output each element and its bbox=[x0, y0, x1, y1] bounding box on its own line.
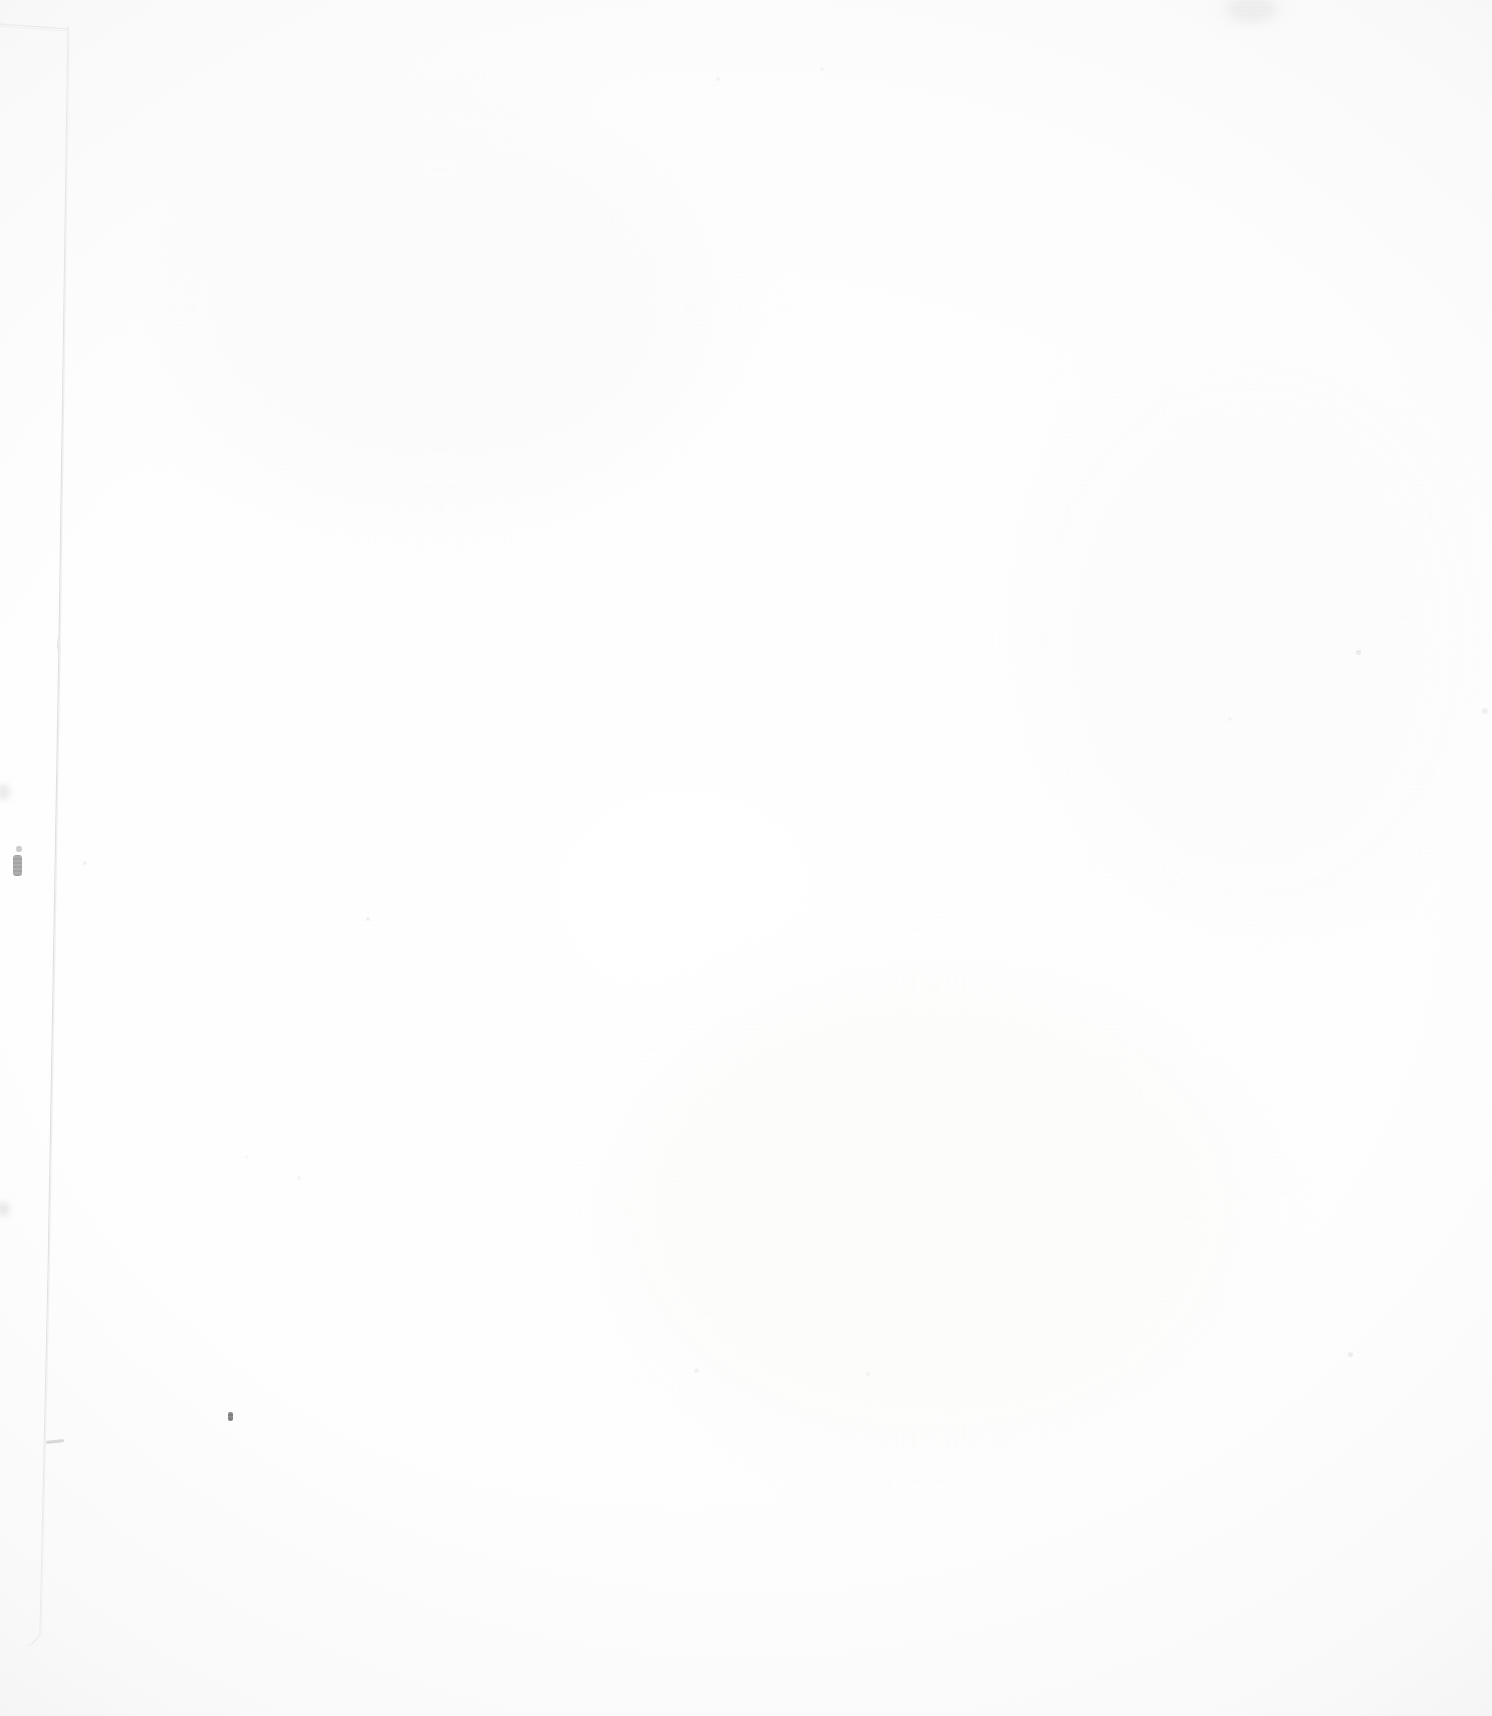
scanned-blank-page bbox=[0, 0, 1492, 1716]
paper-background bbox=[0, 0, 1492, 1716]
